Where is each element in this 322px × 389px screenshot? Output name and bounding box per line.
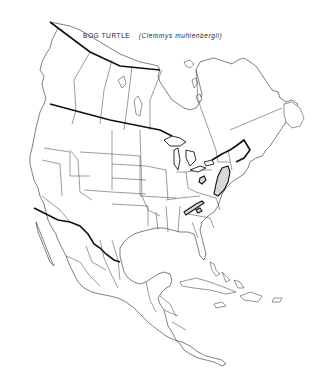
jamaica — [214, 302, 226, 308]
range-southern-appalachians — [184, 201, 204, 215]
internal-borders — [42, 52, 282, 330]
northern-islands — [118, 60, 202, 116]
range-lake-erie — [199, 176, 206, 184]
newfoundland — [284, 102, 304, 128]
caribbean-islands — [180, 262, 282, 308]
north-america-outline-map — [0, 0, 322, 389]
baja-california — [36, 222, 54, 266]
range-northeast — [214, 166, 230, 196]
great-lakes — [164, 136, 214, 172]
international-borders — [34, 22, 250, 262]
range-map: BOG TURTLE (Clemmys muhlenbergii) — [0, 0, 322, 389]
us-canada-border — [50, 104, 172, 136]
coastline — [30, 22, 298, 366]
hispaniola — [240, 292, 262, 302]
bog-turtle-range — [184, 166, 230, 215]
puerto-rico — [272, 298, 282, 302]
